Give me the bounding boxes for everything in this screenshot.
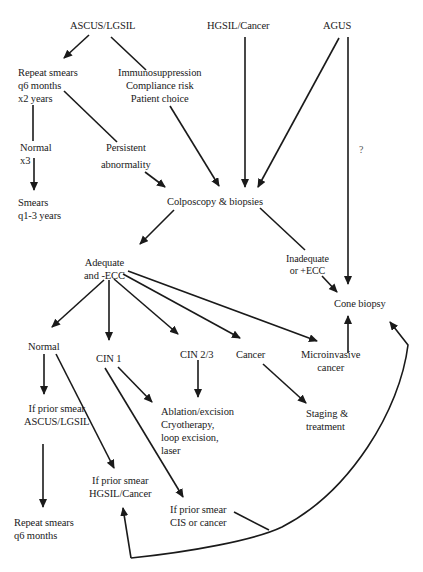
edge-persistent-to-colposcopy [145, 172, 165, 187]
node-prior-ascus-lgsil: If prior smear ASCUS/LGSIL [24, 402, 89, 428]
node-cin1: CIN 1 [96, 352, 121, 365]
node-normal: Normal [28, 340, 59, 353]
edge-adequate-to-microinvasive [128, 271, 317, 341]
edge-agus-to-colposcopy [258, 38, 339, 187]
node-ablation-excision: Ablation/excision Cryotherapy, loop exci… [161, 405, 234, 457]
edge-inadequate-to-cone [322, 276, 337, 292]
node-staging-treatment: Staging & treatment [306, 407, 348, 433]
node-adequate-ecc: Adequate and -ECC [84, 256, 125, 282]
node-hgsil-cancer: HGSIL/Cancer [207, 19, 269, 32]
edge-colposcopy-to-inadequate [260, 208, 305, 250]
edge-adequate-to-normal [52, 280, 104, 327]
node-prior-cis-cancer: If prior smear CIS or cancer [170, 503, 226, 529]
edge-curve-to-prior-hgsil [123, 508, 131, 558]
node-risk-factors: Immunosuppression Compliance risk Patien… [118, 66, 201, 105]
edge-colposcopy-to-adequate [140, 210, 174, 244]
flowchart-canvas: ASCUS/LGSIL HGSIL/Cancer AGUS Repeat sme… [0, 0, 423, 572]
node-repeat-smears: Repeat smears q6 months x2 years [18, 66, 78, 105]
node-inadequate-ecc: Inadequate or +ECC [286, 253, 329, 277]
node-colposcopy-biopsies: Colposcopy & biopsies [167, 195, 263, 208]
edge-prior-cis-connector [234, 512, 269, 530]
node-persistent-abnormality: Persistent abnormality [101, 141, 151, 171]
node-normal-x3: Normal x3 [20, 141, 53, 167]
uncertain-pathway-label: ? [359, 144, 363, 155]
edge-ascus-to-repeat [64, 35, 89, 58]
node-ascus-lgsil: ASCUS/LGSIL [70, 19, 135, 32]
node-cancer: Cancer [236, 348, 265, 361]
node-cone-biopsy: Cone biopsy [334, 297, 386, 310]
node-smears-q1-3: Smears q1-3 years [18, 196, 61, 222]
node-microinvasive-cancer: Microinvasive cancer [301, 348, 360, 374]
node-cin23: CIN 2/3 [180, 348, 213, 361]
edge-cancer-to-staging [263, 364, 306, 403]
node-repeat-smears-q6: Repeat smears q6 months [14, 516, 74, 542]
node-agus: AGUS [323, 19, 351, 32]
edge-risk-to-colposcopy [170, 106, 219, 186]
node-prior-hgsil-cancer: If prior smear HGSIL/Cancer [89, 474, 151, 500]
